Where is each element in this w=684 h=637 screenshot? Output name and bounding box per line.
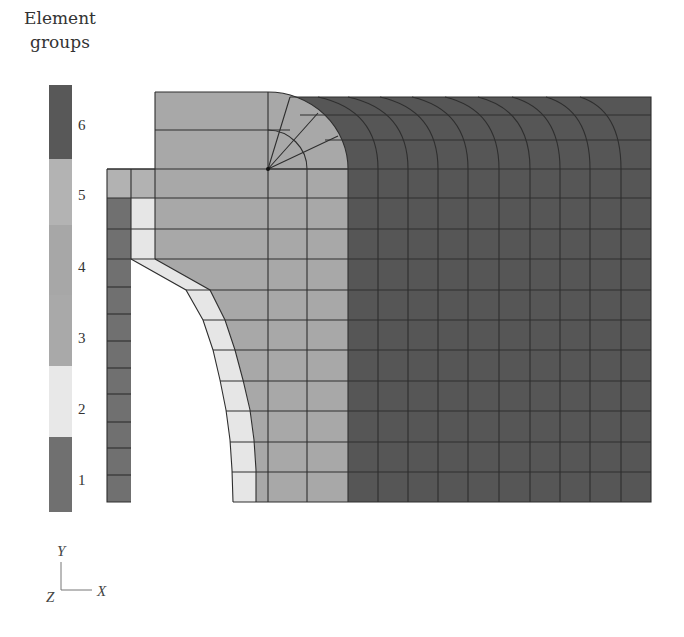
legend-band-1 bbox=[49, 437, 72, 512]
axis-label-y: Y bbox=[57, 543, 67, 559]
legend-label-1: 1 bbox=[78, 472, 86, 488]
region-group-1 bbox=[107, 198, 131, 502]
legend-band-3 bbox=[49, 295, 72, 366]
legend-band-4 bbox=[49, 225, 72, 295]
axis-label-x: X bbox=[96, 583, 107, 599]
legend-label-2: 2 bbox=[78, 401, 86, 417]
fe-mesh-figure: 6 5 4 3 2 1 bbox=[0, 0, 684, 637]
axis-triad: Y X Z bbox=[46, 543, 107, 605]
legend-band-5 bbox=[49, 159, 72, 225]
fan-center-node bbox=[266, 167, 270, 171]
legend-color-bar bbox=[49, 85, 72, 512]
mesh-regions bbox=[107, 92, 651, 502]
legend-label-4: 4 bbox=[78, 259, 86, 275]
axis-label-z: Z bbox=[46, 589, 55, 605]
legend-label-6: 6 bbox=[78, 117, 86, 133]
legend-label-5: 5 bbox=[78, 187, 86, 203]
legend-band-6 bbox=[49, 85, 72, 159]
legend-labels: 6 5 4 3 2 1 bbox=[78, 117, 86, 488]
legend-band-2 bbox=[49, 366, 72, 437]
legend-label-3: 3 bbox=[78, 330, 86, 346]
